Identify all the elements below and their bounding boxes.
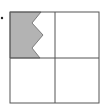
bullet-dot <box>1 17 3 19</box>
grid-diagram <box>0 0 103 106</box>
shaded-zigzag-region <box>10 12 43 58</box>
